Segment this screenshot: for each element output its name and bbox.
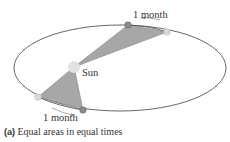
swept-area-bottom xyxy=(38,67,83,110)
top-interval-label: 1 month xyxy=(133,10,168,21)
kepler-orbit-diagram xyxy=(0,0,230,142)
swept-area-top xyxy=(74,25,167,67)
caption-text: Equal areas in equal times xyxy=(15,126,122,137)
planet-icon-bottom-right xyxy=(80,107,87,114)
planet-icon-bottom-left xyxy=(35,94,42,101)
sun-icon xyxy=(68,61,80,73)
planet-icon-top-right xyxy=(164,29,171,36)
planet-icon-top-left xyxy=(125,22,132,29)
sun-label: Sun xyxy=(82,68,98,79)
figure-caption: (a) Equal areas in equal times xyxy=(4,127,122,137)
bottom-interval-label: 1 month xyxy=(43,113,78,124)
caption-tag: (a) xyxy=(4,127,15,137)
